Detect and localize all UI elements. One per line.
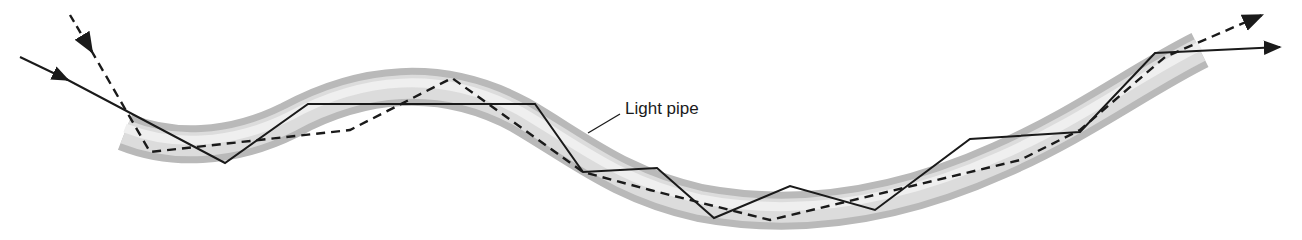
light-pipe-label: Light pipe bbox=[625, 99, 699, 119]
label-leader-line bbox=[588, 114, 620, 133]
light-pipe bbox=[125, 46, 1200, 211]
